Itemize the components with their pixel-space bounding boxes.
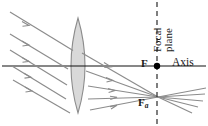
incoming-ray [10,50,67,85]
focal-plane-label-line2: plane [163,28,174,52]
incoming-ray [10,12,73,51]
focal-point-axis-label: F [141,58,148,69]
focal-point-off-axis-letter: F [138,96,145,108]
arrowhead-icon [108,89,115,93]
ray-diagram-figure: Focal plane F Fa Axis [0,0,208,126]
focal-point-off-axis-subscript: a [145,101,149,110]
refracted-ray [86,71,158,97]
arrowhead-icon [24,73,31,78]
incoming-ray-group [10,12,73,113]
arrowhead-icon [22,57,29,62]
incoming-ray [10,34,68,69]
diverging-ray-group [158,88,206,113]
incoming-ray-arrowhead-group [22,22,32,93]
arrowhead-icon [25,87,32,92]
arrowhead-icon [22,22,29,27]
focal-point-off-axis-label: Fa [138,97,148,110]
incoming-ray [12,66,66,99]
focal-point-dot [154,63,160,69]
arrowhead-icon [22,41,29,46]
axis-label: Axis [172,57,194,69]
